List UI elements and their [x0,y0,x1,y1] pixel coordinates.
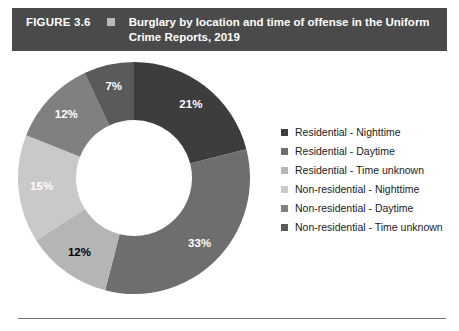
donut-slice[interactable] [105,149,250,294]
donut-chart-svg: 21%33%12%15%12%7% [14,52,266,308]
legend-item[interactable]: Residential - Daytime [281,143,456,160]
legend-swatch-icon [281,148,288,155]
figure-banner: FIGURE 3.6 Burglary by location and time… [12,8,447,51]
legend-item-label: Residential - Time unknown [295,164,424,176]
legend-item[interactable]: Non-residential - Nighttime [281,181,456,198]
legend-swatch-icon [281,205,288,212]
chart-legend: Residential - Nighttime Residential - Da… [281,124,456,238]
slice-value-label: 7% [105,80,122,92]
donut-slice-group [18,62,250,294]
legend-swatch-icon [281,186,288,193]
legend-item-label: Non-residential - Time unknown [295,221,443,233]
slice-value-label: 12% [68,246,91,258]
legend-swatch-icon [281,224,288,231]
slice-value-label: 33% [188,237,211,249]
donut-chart: 21%33%12%15%12%7% [14,52,266,308]
legend-swatch-icon [281,129,288,136]
donut-slice[interactable] [134,62,246,164]
legend-item-label: Non-residential - Nighttime [295,183,419,195]
legend-item[interactable]: Non-residential - Daytime [281,200,456,217]
slice-value-label: 12% [55,108,78,120]
square-bullet-icon [107,18,115,26]
legend-swatch-icon [281,167,288,174]
legend-item-label: Non-residential - Daytime [295,202,413,214]
legend-item[interactable]: Residential - Nighttime [281,124,456,141]
figure-title: Burglary by location and time of offense… [129,15,437,44]
legend-item[interactable]: Residential - Time unknown [281,162,456,179]
footer-divider [18,318,446,319]
legend-item-label: Residential - Daytime [295,145,395,157]
slice-value-label: 15% [30,180,53,192]
slice-value-label: 21% [179,98,202,110]
figure-number: FIGURE 3.6 [26,15,91,29]
legend-item-label: Residential - Nighttime [295,126,401,138]
legend-item[interactable]: Non-residential - Time unknown [281,219,456,236]
